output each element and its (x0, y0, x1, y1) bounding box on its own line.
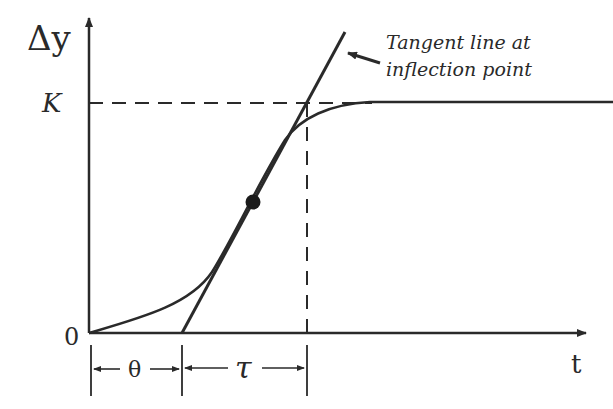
theta-label: θ (128, 357, 141, 382)
annotation-arrow (348, 53, 380, 63)
annotation-line-1: Tangent line at (386, 31, 531, 53)
annotation-line-2: inflection point (386, 58, 532, 80)
k-label: K (41, 88, 63, 118)
x-axis-label: t (571, 349, 582, 379)
tangent-line (182, 32, 345, 333)
inflection-point-marker (246, 195, 261, 210)
origin-label: 0 (64, 323, 79, 351)
tau-label: τ (235, 350, 252, 385)
y-axis-label: Δy (27, 18, 72, 58)
step-response-diagram: Tangent line at inflection point Δy K 0 … (0, 0, 613, 409)
response-curve (89, 102, 613, 333)
